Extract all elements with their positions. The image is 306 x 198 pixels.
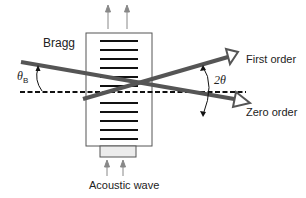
zero-order-arrowhead <box>233 92 250 107</box>
transducer <box>100 146 136 157</box>
theta-b-label: θB <box>17 70 28 85</box>
acoustic-wave-label: Acoustic wave <box>89 180 159 191</box>
first-order-label: First order <box>246 54 296 65</box>
diagram-canvas <box>0 0 306 198</box>
theta-subscript: B <box>23 76 28 85</box>
first-order-arrowhead <box>226 49 238 64</box>
bottom-arrows <box>105 160 126 176</box>
bragg-label: Bragg <box>43 37 75 49</box>
top-arrows <box>106 5 130 29</box>
zero-order-label: Zero order <box>246 107 297 118</box>
two-theta-arrowhead-bottom <box>200 111 206 117</box>
bragg-diagram: Bragg θB 2θ First order Zero order Acous… <box>0 0 306 198</box>
two-theta-label: 2θ <box>214 74 226 86</box>
theta-b-arc <box>37 68 42 91</box>
